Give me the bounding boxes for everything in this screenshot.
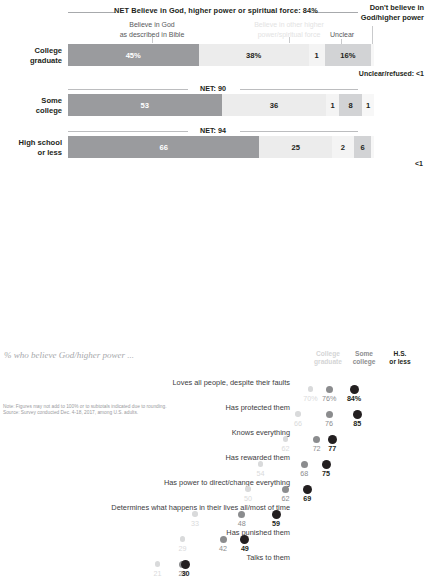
dot-col-header-hs-or-less: H.S. or less (383, 350, 417, 366)
dot-plot-row: Determines what happens in their lives a… (0, 503, 426, 531)
dot-value-label: 42 (211, 544, 235, 553)
dot-value-label: 21 (146, 569, 170, 578)
leader-tick-other (289, 37, 290, 43)
dot-value-label: 59 (264, 519, 288, 528)
legend-unclear: Unclear (330, 30, 370, 40)
row1-line1: Some (41, 96, 62, 105)
footer-source: Source: Survey conducted Dec. 4-18, 2017… (3, 410, 166, 416)
dot-plot-row: Knows everything627277 (0, 428, 426, 456)
dot-marker (303, 485, 312, 494)
dot-value-label: 75 (314, 469, 338, 478)
dot-marker (240, 535, 249, 544)
dot-value-label: 69 (295, 494, 319, 503)
dot-marker (308, 386, 314, 392)
dot-marker (155, 561, 161, 567)
dot-value-label: 66 (286, 419, 310, 428)
dot-value-label: 85 (345, 419, 369, 428)
dot-marker (245, 486, 251, 492)
dot-value-label: 54 (248, 469, 272, 478)
dot-value-label: 33 (183, 519, 207, 528)
bar-row-label-0: College graduate (0, 46, 62, 65)
dot-plot-row: Talks to them212930 (0, 553, 426, 580)
net-subtotal-label-1: NET: 90 (68, 84, 358, 93)
dot-marker (282, 486, 289, 493)
dot-value-label: 76 (317, 419, 341, 428)
dot-plot-row: Has rewarded them546875 (0, 453, 426, 481)
dot-row-label: Loves all people, despite their faults (0, 378, 290, 387)
dot-value-label: 30 (174, 569, 198, 578)
dot-marker (322, 460, 331, 469)
row1-line2: college (36, 106, 62, 115)
dot-marker (272, 510, 281, 519)
dot-marker (192, 511, 198, 517)
row0-line1: College (35, 46, 62, 55)
row0-line2: graduate (30, 56, 62, 65)
bar-seg-unclear-2: 2 (332, 136, 354, 158)
col2-line1: H.S. (394, 350, 407, 357)
unclear-refused-note: Unclear/refused: <1 (359, 70, 424, 77)
bar-seg-unclear-0: 1 (309, 44, 325, 66)
footer-notes: Note: Figures may not add to 100% or to … (3, 404, 166, 416)
dot-value-label: 84% (342, 394, 366, 403)
dot-marker (295, 411, 301, 417)
dot-value-label: 50 (236, 494, 260, 503)
bar-seg-refused-1: 1 (362, 94, 374, 116)
bar-seg-refused-0 (371, 44, 374, 66)
dont-believe-header: Don't believe in God/higher power (338, 3, 424, 23)
dot-col-header-some-college: Some college (347, 350, 381, 366)
bar-seg-refused-2 (371, 136, 374, 158)
dot-value-label: 29 (170, 544, 194, 553)
net-header-group: NET Believe in God, higher power or spir… (68, 6, 358, 18)
bar-row-2: 66 25 2 6 (68, 136, 358, 158)
stacked-bar-chart: NET Believe in God, higher power or spir… (0, 0, 426, 172)
bar-seg-believe-bible-1: 53 (68, 94, 222, 116)
row2-line1: High school (19, 138, 62, 147)
bar-seg-dont-believe-0: 16% (325, 44, 371, 66)
bar-row-label-1: Some college (0, 96, 62, 115)
dot-plot-row: Loves all people, despite their faults70… (0, 378, 426, 406)
dot-plot-row: Has punished them294249 (0, 528, 426, 556)
net-rule-left (68, 12, 116, 13)
dot-marker (283, 436, 289, 442)
col1-line1: Some (355, 350, 373, 357)
dot-plot-row: Has power to direct/change everything506… (0, 478, 426, 506)
leader-tick-bible (152, 37, 153, 43)
dot-marker (353, 410, 362, 419)
bar-seg-believe-other-1: 36 (222, 94, 326, 116)
bar-row-label-2: High school or less (0, 138, 62, 157)
dot-marker (181, 560, 190, 569)
lt1-note: <1 (415, 160, 423, 167)
dot-marker (180, 536, 186, 542)
dot-marker (301, 461, 308, 468)
row2-line2: or less (38, 148, 62, 157)
dot-plot-title: % who believe God/higher power ... (4, 350, 134, 360)
dot-value-label: 62 (273, 494, 297, 503)
legend-bible-line1: Believe in God (129, 21, 175, 28)
legend-other-line1: Believe in other higher (254, 21, 324, 28)
dot-marker (328, 435, 337, 444)
dot-marker (258, 461, 264, 467)
dot-value-label: 76% (317, 394, 341, 403)
dot-row-label: Has rewarded them (0, 453, 290, 462)
bar-row-1: 53 36 1 8 1 (68, 94, 358, 116)
bar-seg-dont-believe-2: 6 (354, 136, 371, 158)
dot-value-label: 49 (233, 544, 257, 553)
dot-marker (238, 511, 245, 518)
dot-value-label: 48 (230, 519, 254, 528)
dot-value-label: 77 (320, 444, 344, 453)
dot-row-label: Knows everything (0, 428, 290, 437)
col2-line2: or less (389, 358, 410, 365)
bar-seg-believe-bible-2: 66 (68, 136, 259, 158)
bar-seg-believe-other-2: 25 (259, 136, 332, 158)
dont-believe-line2: God/higher power (361, 13, 424, 22)
dot-marker (326, 386, 333, 393)
bar-seg-unclear-1: 1 (326, 94, 339, 116)
dot-marker (350, 385, 359, 394)
bar-seg-dont-believe-1: 8 (339, 94, 362, 116)
bar-row-0: 45% 38% 1 16% (68, 44, 358, 66)
dont-believe-line1: Don't believe in (370, 3, 424, 12)
net-header-label: NET Believe in God, higher power or spir… (114, 6, 314, 15)
col0-line2: graduate (314, 358, 342, 365)
dot-marker (220, 536, 227, 543)
